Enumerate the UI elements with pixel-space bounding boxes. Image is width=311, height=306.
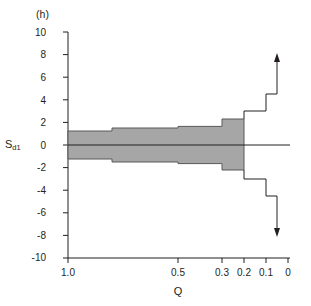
lower-envelope-step xyxy=(244,170,277,224)
y-axis-ticks xyxy=(63,32,68,258)
lower-arrow-icon xyxy=(274,224,280,237)
upper-arrow-icon xyxy=(274,53,280,66)
plot-area xyxy=(0,0,311,306)
upper-envelope-step xyxy=(244,66,277,119)
x-axis-ticks xyxy=(68,258,288,263)
chart-figure: (h) 10 8 6 4 2 0 -2 -4 -6 -8 -10 1.0 0.5… xyxy=(0,0,311,306)
